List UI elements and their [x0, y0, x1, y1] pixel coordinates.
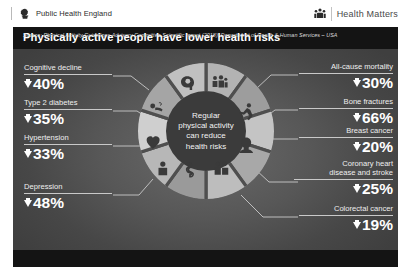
risk-item-type-2-diabetes: Type 2 diabetes 35% [24, 98, 112, 127]
risk-label: Coronary heart disease and stroke [294, 160, 393, 177]
hub-text: Regular physical activity can reduce hea… [162, 111, 250, 152]
risk-value-text: 30% [362, 74, 393, 91]
risk-item-coronary-heart-disease-and-stroke: Coronary heart disease and stroke 25% [294, 160, 393, 197]
arrow-down-icon [24, 151, 32, 158]
risk-value-text: 20% [362, 138, 393, 155]
poster-source: Source: Physical Activity Guidelines Adv… [23, 32, 337, 38]
risk-label: Type 2 diabetes [24, 98, 112, 107]
infographic-page: Public Health England Health Matters Phy… [0, 0, 411, 274]
risk-value: 19% [299, 216, 393, 233]
risk-item-hypertension: Hypertension 33% [24, 133, 112, 162]
risk-value-text: 66% [362, 109, 393, 126]
people-group-icon [314, 8, 326, 19]
brand-divider [11, 7, 12, 20]
risk-label: Breast cancer [299, 126, 393, 135]
campaign-label: Health Matters [337, 9, 398, 19]
risk-value: 20% [299, 138, 393, 155]
risk-item-breast-cancer: Breast cancer 20% [299, 126, 393, 155]
risk-value: 40% [24, 75, 112, 92]
risk-label: Hypertension [24, 133, 112, 142]
risk-value: 30% [299, 74, 393, 91]
page-header: Public Health England Health Matters [0, 0, 411, 27]
risk-item-colorectal-cancer: Colorectal cancer 19% [299, 204, 393, 233]
risk-item-depression: Depression 48% [24, 182, 112, 211]
risk-label: Bone fractures [299, 97, 393, 106]
arrow-down-icon [353, 222, 361, 229]
arrow-down-icon [24, 116, 32, 123]
arrow-down-icon [24, 200, 32, 207]
risk-value-text: 25% [362, 180, 393, 197]
risk-value-text: 35% [33, 110, 64, 127]
risk-value: 66% [299, 109, 393, 126]
risk-value-text: 19% [362, 216, 393, 233]
risk-value: 48% [24, 194, 112, 211]
risk-value-text: 33% [33, 145, 64, 162]
brand-lockup: Public Health England [11, 7, 112, 20]
campaign-divider [331, 7, 332, 21]
risk-value: 25% [294, 180, 393, 197]
arrow-down-icon [24, 81, 32, 88]
risk-value: 35% [24, 110, 112, 127]
hub-donut: Regular physical activity can reduce hea… [136, 61, 276, 201]
risk-label: All-cause mortality [299, 62, 393, 71]
royal-crest-icon [19, 8, 31, 20]
risk-item-all-cause-mortality: All-cause mortality 30% [299, 62, 393, 91]
arrow-down-icon [353, 144, 361, 151]
arrow-down-icon [353, 186, 361, 193]
risk-item-cognitive-decline: Cognitive decline 40% [24, 63, 112, 92]
arrow-down-icon [353, 80, 361, 87]
poster-panel: Physically active people have lower heal… [13, 27, 398, 267]
risk-item-bone-fractures: Bone fractures 66% [299, 97, 393, 126]
risk-label: Depression [24, 182, 112, 191]
campaign-lockup: Health Matters [314, 7, 398, 21]
poster-source-band [13, 250, 398, 267]
risk-label: Colorectal cancer [299, 204, 393, 213]
risk-value-text: 40% [33, 75, 64, 92]
risk-value-text: 48% [33, 194, 64, 211]
risk-value: 33% [24, 145, 112, 162]
arrow-down-icon [353, 115, 361, 122]
risk-label: Cognitive decline [24, 63, 112, 72]
brand-label: Public Health England [36, 9, 112, 18]
